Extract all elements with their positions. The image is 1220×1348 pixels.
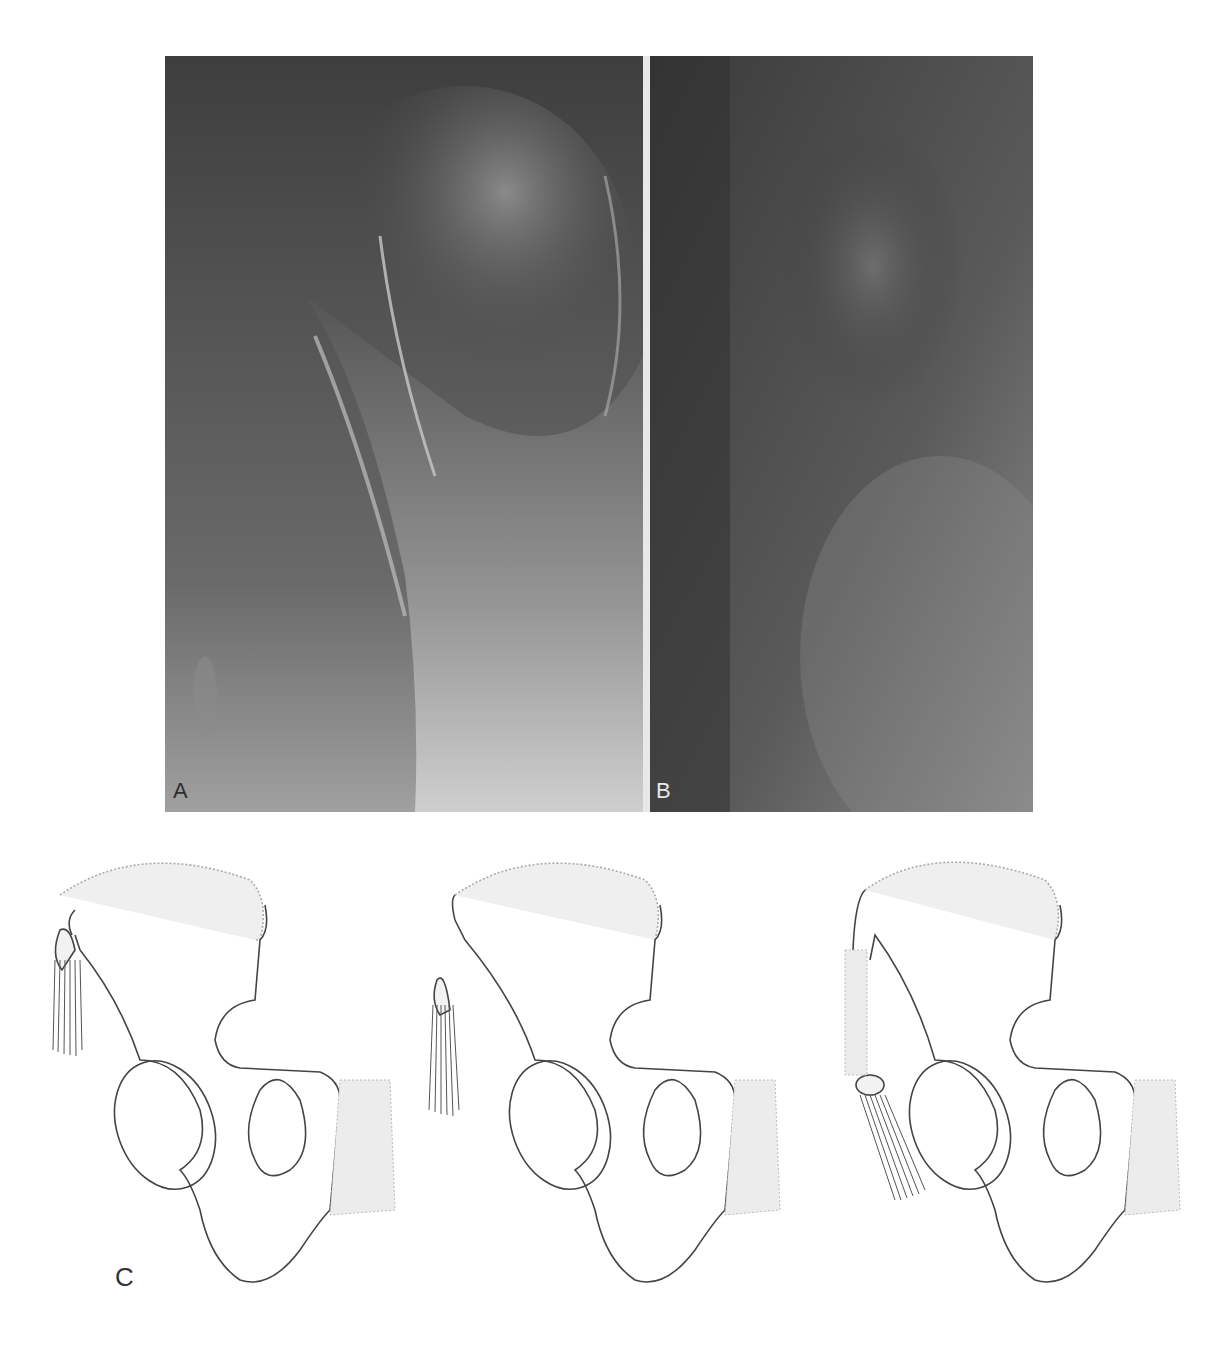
panel-label-a: A bbox=[173, 778, 188, 804]
panel-label-c: C bbox=[115, 1262, 134, 1293]
radiograph-b-image bbox=[650, 56, 1033, 812]
pelvis-drawing-2 bbox=[415, 840, 815, 1320]
panel-divider bbox=[643, 56, 650, 812]
pelvis-drawing-3 bbox=[815, 840, 1215, 1320]
radiograph-a-image bbox=[165, 56, 643, 812]
panel-label-b: B bbox=[656, 778, 671, 804]
radiograph-panel-b: B bbox=[650, 56, 1033, 812]
pelvis-drawing-1 bbox=[20, 840, 420, 1320]
radiograph-panel-a: A bbox=[165, 56, 643, 812]
